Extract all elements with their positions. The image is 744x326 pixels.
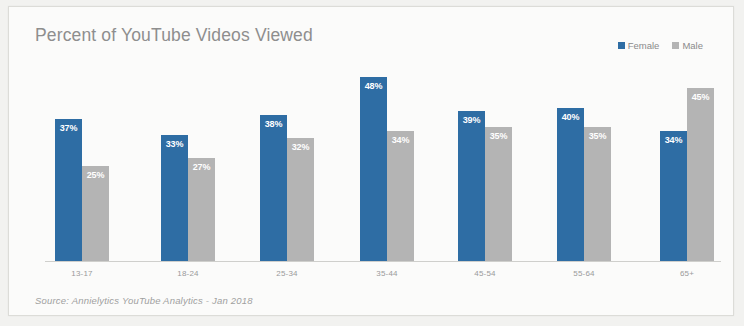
bar-value-label: 35% (584, 131, 611, 141)
bar-male-65+[interactable]: 45% (687, 88, 714, 262)
axis-baseline (45, 261, 721, 262)
chart-card: Percent of YouTube Videos Viewed Female … (8, 6, 734, 316)
legend-item-male[interactable]: Male (672, 40, 703, 51)
legend-item-female[interactable]: Female (618, 40, 660, 51)
bar-value-label: 40% (557, 112, 584, 122)
category-label-55-64: 55-64 (557, 269, 611, 278)
bar-value-label: 35% (485, 131, 512, 141)
bar-male-25-34[interactable]: 32% (287, 138, 314, 262)
bar-male-55-64[interactable]: 35% (584, 127, 611, 262)
bar-group: 39%35% (458, 69, 512, 262)
category-label-25-34: 25-34 (260, 269, 314, 278)
legend-label-male: Male (682, 40, 703, 51)
bar-female-35-44[interactable]: 48% (360, 77, 387, 262)
bar-male-18-24[interactable]: 27% (188, 158, 215, 262)
bar-value-label: 45% (687, 92, 714, 102)
bar-value-label: 32% (287, 142, 314, 152)
bar-value-label: 39% (458, 115, 485, 125)
bar-value-label: 34% (660, 135, 687, 145)
bar-group: 37%25% (55, 69, 109, 262)
bar-group: 34%45% (660, 69, 714, 262)
category-label-13-17: 13-17 (55, 269, 109, 278)
bar-male-13-17[interactable]: 25% (82, 166, 109, 263)
legend-label-female: Female (628, 40, 660, 51)
legend-swatch-male (672, 42, 679, 49)
category-label-65+: 65+ (660, 269, 714, 278)
bar-chart-plot-area: 37%25%33%27%38%32%48%34%39%35%40%35%34%4… (45, 69, 731, 262)
bar-female-18-24[interactable]: 33% (161, 135, 188, 262)
bar-female-65+[interactable]: 34% (660, 131, 687, 262)
bar-male-45-54[interactable]: 35% (485, 127, 512, 262)
bar-female-55-64[interactable]: 40% (557, 108, 584, 262)
source-note: Source: Annielytics YouTube Analytics - … (35, 295, 253, 306)
legend-swatch-female (618, 42, 625, 49)
bar-value-label: 38% (260, 119, 287, 129)
bar-group: 33%27% (161, 69, 215, 262)
bar-value-label: 37% (55, 123, 82, 133)
chart-legend: Female Male (618, 40, 703, 51)
bar-female-25-34[interactable]: 38% (260, 115, 287, 262)
category-label-45-54: 45-54 (458, 269, 512, 278)
bar-group: 40%35% (557, 69, 611, 262)
bar-female-45-54[interactable]: 39% (458, 111, 485, 262)
bar-value-label: 48% (360, 81, 387, 91)
bar-value-label: 27% (188, 162, 215, 172)
bar-value-label: 33% (161, 139, 188, 149)
bar-group: 38%32% (260, 69, 314, 262)
category-label-18-24: 18-24 (161, 269, 215, 278)
bar-male-35-44[interactable]: 34% (387, 131, 414, 262)
category-label-35-44: 35-44 (360, 269, 414, 278)
page-title: Percent of YouTube Videos Viewed (35, 25, 313, 46)
bar-value-label: 25% (82, 170, 109, 180)
bar-group: 48%34% (360, 69, 414, 262)
bar-value-label: 34% (387, 135, 414, 145)
bar-female-13-17[interactable]: 37% (55, 119, 82, 262)
